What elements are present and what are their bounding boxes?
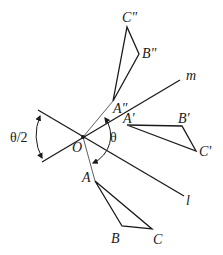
label-c: C [153,232,163,247]
origin-point [81,135,85,139]
label-origin: O [72,140,82,155]
triangle-abc [95,181,152,229]
half-angle-arc [36,116,42,158]
label-b-double-prime: B" [142,46,157,61]
triangle-a-double-prime [113,27,139,101]
label-c-double-prime: C" [122,10,137,25]
label-b-prime: B' [178,111,191,126]
full-angle-arc [93,118,111,163]
label-l: l [186,193,190,208]
reflection-rotation-diagram: m l O θ/2 θ A B C A' B' C' A" B" C" [0,0,223,255]
triangle-a-prime [127,125,196,151]
label-full-angle: θ [110,130,117,145]
ray-to-a-double-prime [83,101,113,137]
line-m [42,80,180,162]
label-half-angle: θ/2 [10,130,28,145]
label-a: A [81,170,91,185]
label-b: B [111,231,120,246]
label-m: m [186,68,196,83]
line-l [38,110,184,196]
label-a-double-prime: A" [112,101,128,116]
label-c-prime: C' [199,144,212,159]
